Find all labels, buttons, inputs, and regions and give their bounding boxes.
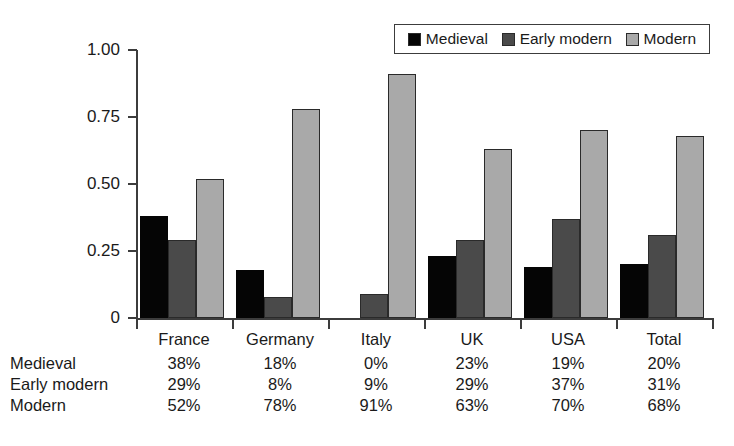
bar-italy-earlymodern <box>360 294 388 318</box>
x-label-total: Total <box>616 330 712 349</box>
table-cell-r0-c1: 18% <box>230 354 330 373</box>
y-tick-label-1: 0.25 <box>60 241 120 261</box>
x-tick-3 <box>424 320 426 329</box>
legend-swatch-early-modern <box>502 33 515 46</box>
table-row: Medieval38%18%0%23%19%20% <box>0 354 734 375</box>
bar-germany-earlymodern <box>264 297 292 318</box>
bar-group-germany <box>236 50 320 318</box>
x-tick-0 <box>136 320 138 329</box>
legend-item-early-modern: Early modern <box>502 31 612 47</box>
table-cell-r1-c2: 9% <box>326 375 426 394</box>
bar-france-modern <box>196 179 224 318</box>
bar-group-total <box>620 50 704 318</box>
bar-uk-medieval <box>428 256 456 318</box>
legend-swatch-medieval <box>408 33 421 46</box>
table-cell-r0-c0: 38% <box>134 354 234 373</box>
x-label-uk: UK <box>424 330 520 349</box>
table-cell-r2-c2: 91% <box>326 396 426 415</box>
bar-uk-modern <box>484 149 512 318</box>
x-label-germany: Germany <box>232 330 328 349</box>
table-row: Modern52%78%91%63%70%68% <box>0 396 734 417</box>
legend-label-early-modern: Early modern <box>520 31 612 47</box>
bar-total-modern <box>676 136 704 318</box>
bar-france-medieval <box>140 216 168 318</box>
table-row-label-2: Modern <box>10 396 66 415</box>
table-row-label-1: Early modern <box>10 375 108 394</box>
table-cell-r2-c3: 63% <box>422 396 522 415</box>
y-tick-label-4: 1.00 <box>60 40 120 60</box>
legend-item-medieval: Medieval <box>408 31 488 47</box>
legend-label-medieval: Medieval <box>426 31 488 47</box>
bar-italy-modern <box>388 74 416 318</box>
data-table: Medieval38%18%0%23%19%20%Early modern29%… <box>0 354 734 417</box>
bar-group-france <box>140 50 224 318</box>
x-tick-5 <box>616 320 618 329</box>
plot-area <box>136 50 712 318</box>
x-tick-4 <box>520 320 522 329</box>
y-tick-label-3: 0.75 <box>60 107 120 127</box>
bar-usa-modern <box>580 130 608 318</box>
bar-uk-earlymodern <box>456 240 484 318</box>
table-row-label-0: Medieval <box>10 354 76 373</box>
table-cell-r2-c0: 52% <box>134 396 234 415</box>
table-cell-r2-c1: 78% <box>230 396 330 415</box>
table-cell-r1-c4: 37% <box>518 375 618 394</box>
y-tick-label-0: 0 <box>60 308 120 328</box>
x-label-italy: Italy <box>328 330 424 349</box>
bar-group-usa <box>524 50 608 318</box>
x-tick-1 <box>232 320 234 329</box>
bar-group-italy <box>332 50 416 318</box>
table-cell-r1-c3: 29% <box>422 375 522 394</box>
table-cell-r1-c1: 8% <box>230 375 330 394</box>
y-tick-label-2: 0.50 <box>60 174 120 194</box>
table-cell-r2-c4: 70% <box>518 396 618 415</box>
chart-figure: Medieval Early modern Modern 00.250.500.… <box>0 0 734 446</box>
table-row: Early modern29%8%9%29%37%31% <box>0 375 734 396</box>
x-label-france: France <box>136 330 232 349</box>
legend-item-modern: Modern <box>626 31 697 47</box>
table-cell-r2-c5: 68% <box>614 396 714 415</box>
bar-total-earlymodern <box>648 235 676 318</box>
x-tick-2 <box>328 320 330 329</box>
table-cell-r0-c2: 0% <box>326 354 426 373</box>
table-cell-r1-c0: 29% <box>134 375 234 394</box>
bar-usa-medieval <box>524 267 552 318</box>
bar-germany-medieval <box>236 270 264 318</box>
legend-label-modern: Modern <box>644 31 697 47</box>
x-label-usa: USA <box>520 330 616 349</box>
table-cell-r1-c5: 31% <box>614 375 714 394</box>
table-cell-r0-c4: 19% <box>518 354 618 373</box>
table-cell-r0-c5: 20% <box>614 354 714 373</box>
bar-france-earlymodern <box>168 240 196 318</box>
bar-total-medieval <box>620 264 648 318</box>
legend-swatch-modern <box>626 33 639 46</box>
bar-group-uk <box>428 50 512 318</box>
bar-usa-earlymodern <box>552 219 580 318</box>
table-cell-r0-c3: 23% <box>422 354 522 373</box>
bar-germany-modern <box>292 109 320 318</box>
x-tick-6 <box>712 320 714 329</box>
